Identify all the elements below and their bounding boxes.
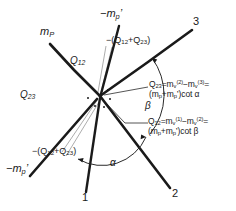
label-ray-2: 2 <box>172 188 178 200</box>
equation-q23-line2: (mp+mp’)cot α <box>149 90 209 99</box>
label-angle-alpha: α <box>110 158 116 169</box>
equation-q12-line1: Q12=mv(1)−mv(2)= <box>148 117 208 126</box>
pointer-q12 <box>103 100 148 123</box>
ray-minus-m-p-prime-bottom <box>30 99 97 176</box>
label-minus-m-p-prime-bottom: −mp’ <box>6 163 28 175</box>
annotation-neg-sum-top: −(Q12+Q23) <box>106 36 150 46</box>
equation-q12: Q12=mv(1)−mv(2)= (mp+mp’)cot β <box>148 117 208 137</box>
label-ray-1: 1 <box>82 192 88 204</box>
label-m-p: mP <box>40 26 54 38</box>
label-angle-beta: β <box>145 101 151 112</box>
ray-2 <box>100 96 170 188</box>
label-q23: Q23 <box>20 90 35 101</box>
equation-q12-line2: (mp+mp’)cot β <box>148 127 208 136</box>
equation-q23-line1: Q23=mv(2)−mv(3)= <box>149 80 209 89</box>
diagram-canvas: mP −mp’ 3 −(Q12+Q23) Q12 Q23 Q23=mv(2)−m… <box>0 0 236 211</box>
label-ray-3: 3 <box>193 16 199 28</box>
leader-neg-sum-top-b <box>98 46 106 92</box>
diagram-linework <box>0 0 236 211</box>
pointer-q12-elbow <box>103 100 148 123</box>
arrowhead-beta-top <box>152 58 157 63</box>
label-minus-m-p-prime-top: −mp’ <box>100 8 122 20</box>
label-q12: Q12 <box>70 56 85 67</box>
annotation-neg-sum-bottom-left: −(Q12+Q23) <box>32 147 76 157</box>
equation-q23: Q23=mv(2)−mv(3)= (mp+mp’)cot α <box>149 80 209 100</box>
